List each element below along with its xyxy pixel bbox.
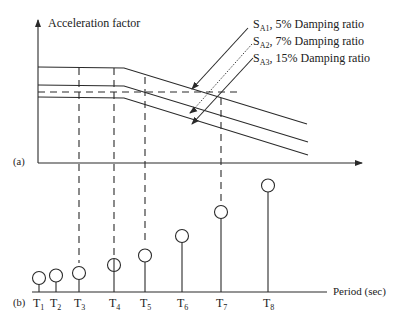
label-t1: T1 [33, 296, 44, 312]
period-stems [33, 179, 275, 292]
legend-sa1: SA1, 5% Damping ratio [253, 17, 364, 33]
legend-sa2: SA2, 7% Damping ratio [253, 34, 364, 50]
mode-t5-marker [139, 249, 152, 262]
mode-t8-marker [262, 179, 275, 192]
label-t6: T6 [177, 296, 188, 312]
mode-t7-marker [215, 206, 228, 219]
label-t5: T5 [140, 296, 151, 312]
x-axis-label: Period (sec) [333, 285, 386, 298]
mode-t6-marker [176, 230, 189, 243]
label-t4: T4 [109, 296, 120, 312]
panel-b-label: (b) [13, 297, 26, 309]
mode-t3-marker [73, 267, 86, 280]
svg-text:SA2, 7% Damping ratio: SA2, 7% Damping ratio [253, 34, 364, 50]
label-t8: T8 [263, 296, 274, 312]
svg-text:SA3, 15% Damping ratio: SA3, 15% Damping ratio [253, 51, 370, 67]
y-axis-label: Acceleration factor [48, 16, 140, 30]
curve-sa1 [38, 67, 307, 124]
leader-sa2 [194, 44, 252, 109]
svg-text:SA1, 5% Damping ratio: SA1, 5% Damping ratio [253, 17, 364, 33]
legend-sa3: SA3, 15% Damping ratio [253, 51, 370, 67]
mode-t1-marker [33, 272, 46, 285]
label-t2: T2 [50, 296, 61, 312]
leader-sa2-arrowhead [190, 110, 194, 113]
leader-sa3 [192, 58, 253, 124]
label-t3: T3 [74, 296, 85, 312]
period-labels: T1 T2 T3 T4 T5 T6 T7 T8 [33, 296, 274, 312]
panel-a-label: (a) [13, 156, 25, 168]
response-spectrum-diagram: Acceleration factor (a) SA1, 5% Damping … [0, 0, 399, 323]
mode-t2-marker [50, 269, 63, 282]
label-t7: T7 [216, 296, 227, 312]
